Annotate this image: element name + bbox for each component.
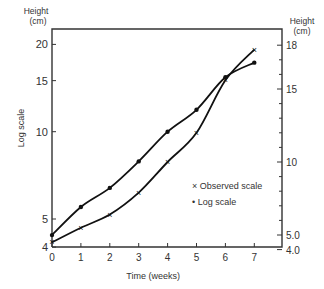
dot-marker bbox=[252, 60, 256, 64]
x-tick-label: 0 bbox=[49, 252, 55, 263]
y-right-unit: (cm) bbox=[294, 26, 311, 36]
y-left-axis-label: Log scale bbox=[16, 109, 26, 148]
y-right-tick-label: 10 bbox=[286, 157, 298, 168]
cross-marker: × bbox=[194, 128, 199, 138]
x-tick-label: 1 bbox=[78, 252, 84, 263]
dot-marker bbox=[79, 205, 83, 209]
x-tick-label: 3 bbox=[136, 252, 142, 263]
y-left-tick-label: 15 bbox=[36, 75, 48, 87]
cross-marker: × bbox=[78, 223, 83, 233]
y-left-tick-label: 20 bbox=[36, 38, 48, 50]
dot-marker bbox=[194, 108, 198, 112]
x-tick-label: 4 bbox=[165, 252, 171, 263]
y-left-tick-label: 10 bbox=[36, 126, 48, 138]
y-left-tick-label: 5 bbox=[42, 213, 48, 225]
x-tick-label: 5 bbox=[194, 252, 200, 263]
plot-frame bbox=[52, 29, 282, 250]
y-right-title: Height bbox=[290, 16, 315, 26]
y-right-tick-label: 18 bbox=[286, 40, 298, 51]
legend-log: • Log scale bbox=[192, 197, 236, 207]
log-curve bbox=[52, 63, 254, 235]
x-axis-label: Time (weeks) bbox=[126, 271, 180, 281]
dot-marker bbox=[137, 159, 141, 163]
cross-marker: × bbox=[107, 210, 112, 220]
y-right-tick-label: 15 bbox=[286, 84, 298, 95]
y-left-title: Height bbox=[24, 6, 49, 16]
cross-marker: × bbox=[165, 157, 170, 167]
cross-marker: × bbox=[136, 188, 141, 198]
x-tick-label: 2 bbox=[107, 252, 113, 263]
dot-marker bbox=[223, 75, 227, 79]
y-left-unit: (cm) bbox=[30, 16, 47, 26]
dot-marker bbox=[165, 130, 169, 134]
axis-labels: 01234567Time (weeks)20151054Height(cm)Lo… bbox=[16, 6, 315, 281]
x-tick-label: 7 bbox=[252, 252, 258, 263]
y-right-tick-label: 5.0 bbox=[286, 230, 300, 241]
x-tick-label: 6 bbox=[223, 252, 229, 263]
dot-marker bbox=[108, 186, 112, 190]
dot-marker bbox=[50, 233, 54, 237]
y-right-tick-label: 4.0 bbox=[286, 245, 300, 256]
chart: ×××××××× 01234567Time (weeks)20151054Hei… bbox=[0, 0, 324, 289]
legend-observed: × Observed scale bbox=[192, 181, 262, 191]
axes-box bbox=[52, 29, 282, 247]
cross-marker: × bbox=[49, 237, 54, 247]
cross-marker: × bbox=[252, 45, 257, 55]
y-left-tick-label: 4 bbox=[42, 241, 48, 253]
